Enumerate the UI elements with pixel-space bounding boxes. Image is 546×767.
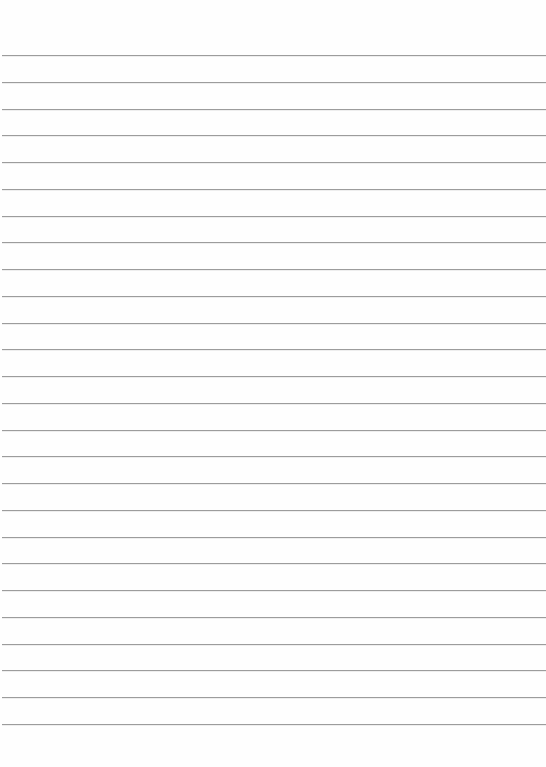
ruled-line (2, 510, 546, 511)
ruled-line (2, 644, 546, 645)
ruled-line (2, 483, 546, 484)
ruled-line (2, 82, 546, 83)
ruled-line (2, 162, 546, 163)
ruled-line (2, 376, 546, 377)
ruled-line (2, 189, 546, 190)
ruled-line (2, 135, 546, 136)
ruled-line (2, 109, 546, 110)
ruled-line (2, 617, 546, 618)
ruled-line (2, 456, 546, 457)
ruled-line (2, 537, 546, 538)
ruled-line (2, 55, 546, 56)
ruled-line (2, 269, 546, 270)
lined-paper-sheet (0, 0, 546, 767)
ruled-line (2, 590, 546, 591)
ruled-line (2, 403, 546, 404)
ruled-line (2, 296, 546, 297)
ruled-line (2, 724, 546, 725)
ruled-line (2, 323, 546, 324)
ruled-line (2, 563, 546, 564)
ruled-line (2, 697, 546, 698)
ruled-line (2, 242, 546, 243)
ruled-line (2, 670, 546, 671)
ruled-line (2, 216, 546, 217)
ruled-line (2, 430, 546, 431)
ruled-line (2, 349, 546, 350)
